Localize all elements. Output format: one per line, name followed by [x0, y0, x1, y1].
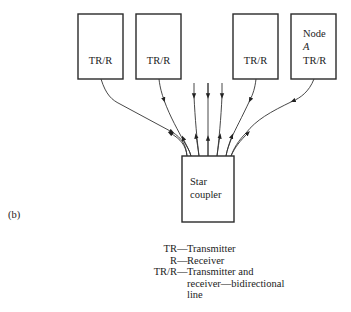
node-label: TR/R: [89, 55, 112, 66]
connection-node2: [159, 79, 191, 156]
legend-dash: —: [177, 266, 187, 278]
legend-item-trr: TR/R—Transmitter and: [139, 266, 284, 278]
hub-label-line2: coupler: [190, 189, 222, 200]
node-box-1: TR/R: [78, 14, 123, 79]
legend-text: Transmitter: [187, 243, 236, 255]
legend-key: TR/R: [139, 266, 177, 278]
node-box-a: Node A TR/R: [291, 14, 336, 79]
star-coupler-box: Star coupler: [182, 156, 234, 222]
legend-continuation: line: [139, 289, 284, 301]
connection-node3: [226, 79, 256, 156]
node-label: TR/R: [244, 55, 267, 66]
output-lines: [194, 83, 222, 156]
figure-label: (b): [8, 209, 20, 220]
node-name-label: Node: [303, 28, 326, 39]
legend-text: Receiver: [187, 255, 224, 267]
hub-label-line1: Star: [190, 176, 207, 187]
connection-node-a: [231, 79, 314, 156]
node-box-2: TR/R: [136, 14, 181, 79]
connection-node1: [101, 79, 187, 156]
legend-dash: —: [177, 255, 187, 267]
legend-dash: —: [177, 243, 187, 255]
legend-item-r: R—Receiver: [139, 255, 284, 267]
legend-text: Transmitter and: [187, 266, 253, 278]
legend-key: R: [139, 255, 177, 267]
node-label: TR/R: [147, 55, 170, 66]
legend-item-tr: TR—Transmitter: [139, 243, 284, 255]
node-label: TR/R: [303, 55, 326, 66]
legend-continuation: receiver—bidirectional: [139, 278, 284, 290]
node-id-label: A: [302, 41, 310, 52]
legend: TR—Transmitter R—Receiver TR/R—Transmitt…: [139, 243, 284, 301]
node-box-3: TR/R: [233, 14, 278, 79]
legend-key: TR: [139, 243, 177, 255]
